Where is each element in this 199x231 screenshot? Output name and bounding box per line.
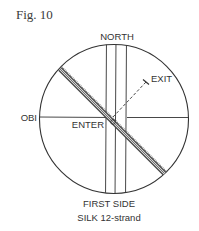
label-north: NORTH	[100, 31, 134, 42]
label-first-side: FIRST SIDE	[83, 198, 135, 209]
exit-path-dashed	[113, 82, 146, 117]
horizontal-line-left	[38, 117, 110, 118]
label-exit: EXIT	[151, 73, 172, 84]
label-material: SILK 12-strand	[77, 212, 140, 223]
vertical-line-right	[126, 40, 127, 200]
vertical-line-middle	[115, 40, 116, 200]
label-obi: OBI	[21, 112, 37, 123]
label-enter: ENTER	[72, 119, 104, 130]
vertical-line-left	[106, 40, 107, 200]
outer-circle	[40, 45, 189, 194]
diagram: NORTH EXIT OBI ENTER FIRST SIDE SILK 12-…	[0, 0, 199, 231]
